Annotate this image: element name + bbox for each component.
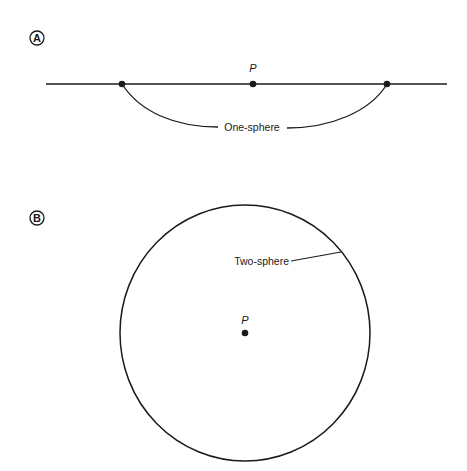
panel-b-letter: B [33, 212, 41, 224]
two-sphere-leader-line [291, 252, 341, 261]
center-p-dot [242, 330, 249, 337]
point-p-label: P [249, 62, 257, 74]
left-endpoint-dot [119, 81, 126, 88]
panel-b: B Two-sphere P [30, 205, 370, 461]
point-p-dot [250, 81, 257, 88]
one-sphere-arc-right [287, 84, 387, 128]
panel-a: A P One-sphere [30, 31, 447, 133]
one-sphere-label: One-sphere [224, 121, 280, 133]
panel-b-badge: B [30, 211, 44, 225]
panel-a-badge: A [30, 31, 44, 45]
two-sphere-label: Two-sphere [234, 255, 289, 267]
center-p-label: P [241, 314, 249, 326]
sphere-diagram: A P One-sphere B Two-sphere P [0, 0, 467, 471]
panel-a-letter: A [33, 32, 41, 44]
right-endpoint-dot [384, 81, 391, 88]
one-sphere-arc-left [122, 84, 218, 127]
